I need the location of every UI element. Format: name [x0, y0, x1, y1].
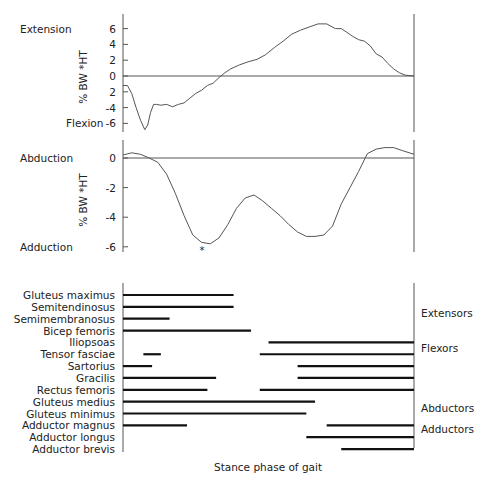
muscle-label: Adductor longus: [29, 431, 115, 443]
muscle-label: Iliopsoas: [69, 336, 115, 348]
muscle-label: Gluteus minimus: [26, 408, 115, 420]
y-tick-label: 2: [109, 86, 116, 98]
muscle-label: Rectus femoris: [37, 384, 115, 396]
muscle-group-label: Abductors: [421, 402, 474, 414]
muscle-label: Gluteus maximus: [23, 289, 115, 301]
muscle-label: Tensor fasciae: [40, 348, 115, 360]
y-tick-label: 0: [109, 152, 116, 164]
muscle-label: Semitendinosus: [31, 301, 115, 313]
muscle-label: Semimembranosus: [14, 313, 115, 325]
asterisk-annotation: *: [200, 245, 205, 256]
y-axis-label: % BW *HT: [77, 50, 89, 104]
y-tick-label: 2: [109, 54, 116, 66]
y-tick-label: 4: [109, 38, 116, 50]
muscle-label: Sartorius: [68, 360, 115, 372]
y-tick-label: 6: [109, 23, 116, 35]
muscle-label: Gluteus medius: [33, 396, 115, 408]
y-tick-label: -2: [106, 182, 116, 194]
muscle-label: Gracilis: [76, 372, 115, 384]
muscle-label: Adductor magnus: [22, 419, 115, 431]
abduction-label: Abduction: [20, 152, 73, 164]
y-axis-label: % BW *HT: [77, 173, 89, 227]
muscle-group-label: Flexors: [421, 342, 458, 354]
gait-chart-figure: 64202-4-6ExtensionFlexion% BW *HT 0-2-4-…: [0, 0, 488, 485]
moment-curve: [123, 24, 414, 130]
muscle-group-label: Extensors: [421, 307, 473, 319]
muscle-label: Bicep femoris: [43, 325, 115, 337]
flexion-label: Flexion: [66, 117, 103, 129]
y-tick-label: -4: [106, 211, 117, 223]
muscle-group-label: Adductors: [421, 423, 474, 435]
chart-canvas: 64202-4-6ExtensionFlexion% BW *HT 0-2-4-…: [0, 0, 488, 485]
hip-flexion-extension-panel: 64202-4-6ExtensionFlexion% BW *HT: [20, 14, 414, 132]
extension-label: Extension: [20, 23, 72, 35]
y-tick-label: -6: [106, 241, 117, 253]
muscle-label: Adductor brevis: [32, 443, 115, 455]
y-tick-label: -6: [106, 117, 117, 129]
hip-abduction-adduction-panel: 0-2-4-6AbductionAdduction% BW *HT*: [20, 140, 414, 256]
muscle-activity-panel: Gluteus maximusSemitendinosusSemimembran…: [14, 283, 475, 473]
adduction-label: Adduction: [20, 241, 73, 253]
y-tick-label: -4: [106, 102, 117, 114]
y-tick-label: 0: [109, 70, 116, 82]
x-axis-label: Stance phase of gait: [214, 461, 322, 473]
moment-curve: [123, 148, 414, 244]
